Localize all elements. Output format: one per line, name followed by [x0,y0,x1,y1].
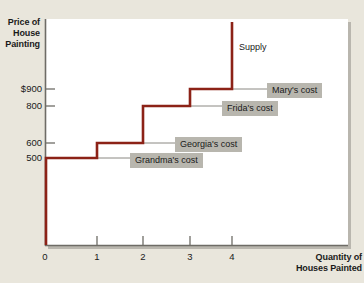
supply-curve [46,22,232,245]
callout-georgia-cost: Georgia's cost [175,137,242,152]
callout-mary-cost: Mary's cost [267,83,322,98]
supply-curve-figure: Price of House Painting Quantity of Hous… [0,0,364,283]
supply-curve-label: Supply [239,42,267,52]
callout-frida-cost: Frida's cost [222,101,278,116]
callout-grandma-cost: Grandma's cost [130,153,203,168]
